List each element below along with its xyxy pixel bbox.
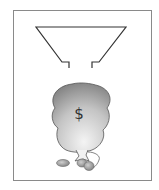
dollar-symbol: $ [74, 105, 84, 123]
diagram-canvas: $ [0, 0, 159, 190]
